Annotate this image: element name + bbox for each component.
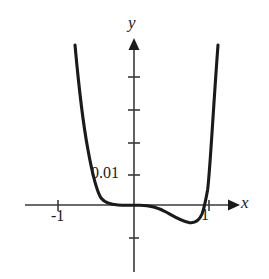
y-tick-label-0point01: 0.01 bbox=[91, 165, 119, 181]
x-tick-label-negative-one: -1 bbox=[51, 208, 64, 224]
x-axis-arrow-icon bbox=[228, 200, 240, 211]
x-tick-label-positive-one: 1 bbox=[201, 207, 209, 223]
plot-canvas bbox=[0, 0, 269, 279]
x-axis-label: x bbox=[241, 194, 249, 211]
curve-path bbox=[75, 45, 218, 223]
y-axis-label: y bbox=[128, 14, 136, 31]
figure-container: y x 0.01 -1 1 bbox=[0, 0, 269, 279]
y-axis-arrow-icon bbox=[129, 38, 140, 50]
